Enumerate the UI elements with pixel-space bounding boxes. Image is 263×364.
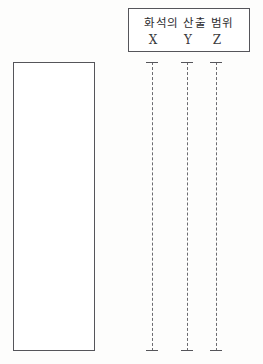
legend-letter-x: X [143,33,163,47]
strata-column [13,62,95,351]
range-cap-top [181,62,193,63]
range-cap-top [146,62,158,63]
legend-letters: XYZ [129,33,249,50]
legend-title: 화석의 산출 범위 [129,14,249,30]
range-cap-bottom [181,350,193,351]
range-cap-top [210,62,222,63]
legend-letter-z: Z [207,33,227,47]
range-dashed-line [187,62,188,351]
range-cap-bottom [210,350,222,351]
figure-canvas: 화석의 산출 범위 XYZ [0,0,263,364]
range-dashed-line [152,62,153,351]
range-dashed-line [216,62,217,351]
range-cap-bottom [146,350,158,351]
legend-box: 화석의 산출 범위 XYZ [128,8,250,52]
legend-letter-y: Y [178,33,198,47]
